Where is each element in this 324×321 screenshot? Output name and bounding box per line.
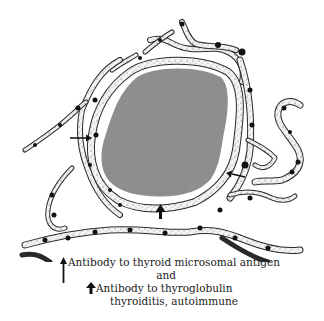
- thyroid-follicle-illustration: [0, 0, 324, 262]
- colloid: [100, 67, 229, 198]
- caption-line-condition: thyroiditis, autoimmune: [110, 295, 238, 308]
- bold-up-arrow-icon: [86, 282, 96, 294]
- caption-line-microsomal: Antibody to thyroid microsomal antigen: [68, 256, 280, 269]
- caption-connector: and: [0, 269, 324, 282]
- figure-canvas: Antibody to thyroid microsomal antigen a…: [0, 0, 324, 321]
- caption-line-thyroglobulin: Antibody to thyroglobulin: [96, 282, 232, 295]
